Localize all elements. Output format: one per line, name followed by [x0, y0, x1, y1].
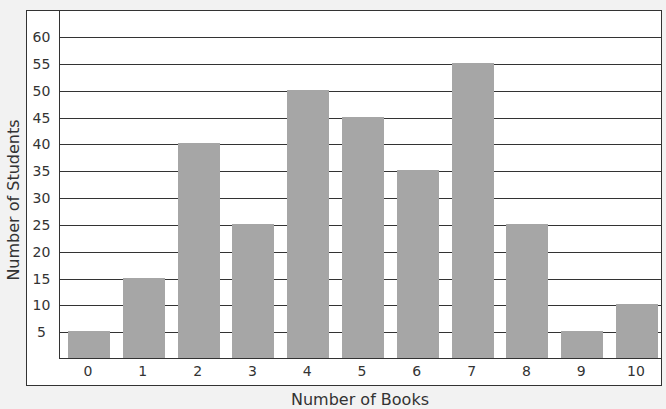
- bar: [287, 90, 329, 358]
- y-tick-label: 10: [26, 297, 57, 313]
- y-tick-label: 20: [26, 244, 57, 260]
- x-tick-label: 2: [177, 363, 219, 379]
- x-tick-label: 9: [560, 363, 602, 379]
- x-tick-label: 5: [341, 363, 383, 379]
- x-tick-label: 7: [451, 363, 493, 379]
- bar: [561, 331, 603, 358]
- y-tick-label: 5: [26, 324, 57, 340]
- bar: [123, 278, 165, 359]
- bar: [397, 170, 439, 358]
- x-tick-label: 8: [505, 363, 547, 379]
- y-tick-label: 15: [26, 271, 57, 287]
- y-tick-label: 40: [26, 136, 57, 152]
- x-tick-label: 1: [122, 363, 164, 379]
- y-tick-label: 30: [26, 190, 57, 206]
- y-axis-label: Number of Students: [4, 119, 23, 280]
- x-tick-label: 3: [231, 363, 273, 379]
- x-tick-label: 10: [615, 363, 657, 379]
- y-tick-label: 50: [26, 83, 57, 99]
- bar: [232, 224, 274, 358]
- gridline: [60, 37, 662, 38]
- y-tick-label: 25: [26, 217, 57, 233]
- bar: [506, 224, 548, 358]
- bar: [342, 117, 384, 359]
- y-tick-label: 55: [26, 56, 57, 72]
- y-tick-label: 35: [26, 163, 57, 179]
- bar: [616, 304, 658, 358]
- y-tick-label: 60: [26, 29, 57, 45]
- plot-area: [59, 10, 662, 359]
- x-tick-label: 6: [396, 363, 438, 379]
- gridline: [60, 64, 662, 65]
- y-tick-label: 45: [26, 110, 57, 126]
- x-tick-label: 0: [67, 363, 109, 379]
- gridline: [60, 91, 662, 92]
- x-tick-label: 4: [286, 363, 328, 379]
- bar: [178, 143, 220, 358]
- bar: [68, 331, 110, 358]
- x-axis-label: Number of Books: [291, 390, 429, 409]
- bar: [452, 63, 494, 358]
